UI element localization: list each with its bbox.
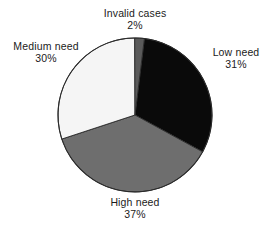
pie-label-invalid-cases: Invalid cases 2%: [92, 7, 178, 31]
pie-label-medium-need-value: 30%: [2, 52, 90, 64]
pie-label-high-need: High need 37%: [91, 196, 179, 220]
pie-label-low-need: Low need 31%: [204, 46, 268, 70]
pie-label-invalid-cases-value: 2%: [92, 19, 178, 31]
pie-chart-figure: Invalid cases 2% Low need 31% Medium nee…: [0, 0, 269, 228]
pie-label-low-need-value: 31%: [204, 58, 268, 70]
pie-label-high-need-value: 37%: [91, 208, 179, 220]
pie-label-high-need-name: High need: [91, 196, 179, 208]
pie-label-medium-need-name: Medium need: [2, 40, 90, 52]
pie-label-medium-need: Medium need 30%: [2, 40, 90, 64]
pie-label-low-need-name: Low need: [204, 46, 268, 58]
pie-label-invalid-cases-name: Invalid cases: [92, 7, 178, 19]
pie-chart-graphic: [0, 0, 269, 228]
